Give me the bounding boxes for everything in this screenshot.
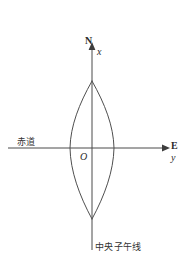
figure-canvas [0, 0, 191, 266]
y-axis-variable-label: y [171, 153, 175, 163]
x-axis-variable-label: x [97, 47, 101, 57]
north-direction-label: N [85, 36, 92, 46]
origin-label: O [80, 152, 87, 162]
east-direction-label: E [171, 141, 178, 151]
equator-annotation-label: 赤道 [17, 138, 36, 147]
central-meridian-annotation-label: 中央子午线 [95, 243, 142, 252]
east-arrow-icon [162, 145, 170, 152]
zone-left-boundary-curve [70, 81, 92, 219]
zone-right-boundary-curve [92, 81, 114, 219]
projection-zone-figure: N x E y O 赤道 中央子午线 [0, 0, 191, 266]
